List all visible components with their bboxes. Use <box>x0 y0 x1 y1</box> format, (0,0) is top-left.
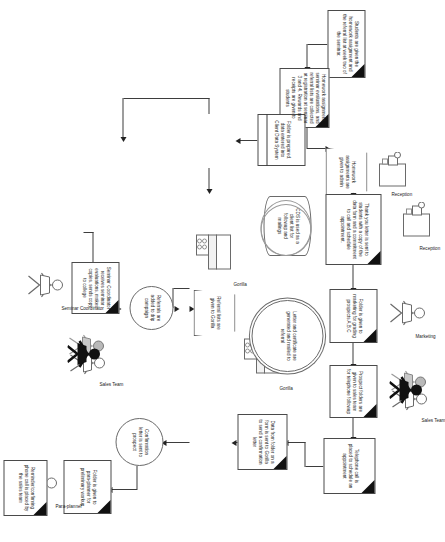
person-icon <box>389 296 425 330</box>
connector <box>122 98 123 138</box>
actor-label-reception-2: Reception <box>419 246 440 251</box>
people-group-icon <box>67 330 107 380</box>
node-reminder-phone-call[interactable]: Reminder/confirming phone call is placed… <box>3 460 47 516</box>
cylinder-ring <box>260 204 311 256</box>
node-students-given-homework[interactable]: Students are given the homework assignme… <box>327 10 365 78</box>
node-text: Confirmation letter is sent to prospect <box>130 425 148 459</box>
node-text: Data from folder on a form is sent to Go… <box>250 418 274 466</box>
arrow-head <box>231 440 236 446</box>
actor-label-reception-1: Reception <box>391 192 412 197</box>
node-text: Reminder/confirming phone call is placed… <box>16 464 34 512</box>
connector <box>83 232 93 233</box>
node-text: Telephone call is placed to schedule an … <box>340 442 358 490</box>
node-text: Prospect folders are given to sales team… <box>344 369 362 414</box>
node-thank-you-letter[interactable]: Thank you letter is sent to students wit… <box>325 194 381 265</box>
node-data-to-gorilla[interactable]: Data from folder on a form is sent to Go… <box>237 414 287 470</box>
node-text: Referral lists are given to Gorilla <box>208 293 220 333</box>
corner-fold-icon <box>367 251 380 264</box>
arrow-head <box>235 138 240 144</box>
actor-label-marketing: Marketing <box>415 334 435 339</box>
connector <box>306 44 307 68</box>
node-text: Folder is given to para-planner for prel… <box>78 464 96 510</box>
node-letter-certificate-mailed[interactable]: Letter and certificate are generated and… <box>251 300 323 372</box>
connector <box>165 442 189 443</box>
connector <box>304 442 305 467</box>
reception-desk-icon <box>375 152 409 190</box>
arrow-head <box>120 137 126 142</box>
corner-fold-icon <box>361 480 374 493</box>
node-telephone-call-placed[interactable]: Telephone call is placed to schedule an … <box>323 438 375 494</box>
node-text: Students are given the homework assignme… <box>334 14 358 74</box>
connector <box>173 288 189 289</box>
node-text: Homework assignments are given to admin <box>337 151 355 193</box>
corner-fold-icon <box>363 329 376 342</box>
node-text: Homework assignment, seminar evaluations… <box>283 72 325 124</box>
node-text: Thank you letter is sent to students wit… <box>338 198 368 261</box>
connector <box>352 343 353 365</box>
corner-fold-icon <box>273 456 286 469</box>
node-homework-to-admin[interactable]: Homework assignments are given to admin <box>325 148 367 196</box>
node-cds-database[interactable]: CDS is used as a client list for followu… <box>263 196 311 256</box>
node-text: Referrals are added to drip campaign <box>142 293 160 323</box>
connector <box>352 265 353 289</box>
connector <box>111 489 137 490</box>
corner-fold-icon <box>363 404 376 417</box>
node-referrals-drip-campaign[interactable]: Referrals are added to drip campaign <box>129 286 173 330</box>
arrow-head <box>189 306 194 312</box>
node-referral-lists-to-gorilla[interactable]: Referral lists are given to Gorilla <box>193 290 235 336</box>
connector <box>92 232 93 262</box>
node-text: Letter and certificate are generated and… <box>278 307 296 365</box>
connector <box>306 128 307 148</box>
people-group-icon <box>389 366 429 416</box>
connector <box>352 418 353 438</box>
arrow-head <box>206 189 212 194</box>
node-text: Folder is given to marketing for grading… <box>344 293 362 339</box>
computer-icon <box>193 232 233 274</box>
actor-label-gorilla-2: Gorilla <box>233 282 246 287</box>
node-text: Folder is prepared, data entered into Cl… <box>272 118 290 162</box>
node-divider <box>266 114 267 166</box>
connector <box>307 44 327 45</box>
connector <box>239 140 257 141</box>
connector <box>208 168 209 190</box>
actor-label-sales-team-1: Sales Team <box>421 418 445 423</box>
connector <box>305 466 323 467</box>
person-icon <box>27 268 63 302</box>
arrow-head <box>174 306 179 312</box>
actor-label-gorilla-1: Gorilla <box>279 386 292 391</box>
corner-fold-icon <box>97 500 110 513</box>
connector <box>306 148 325 149</box>
connector <box>123 98 209 99</box>
connector <box>136 466 137 489</box>
node-text: Seminar Coordinator receives seminar eva… <box>80 266 110 310</box>
node-folder-to-marketing[interactable]: Folder is given to marketing for grading… <box>329 289 377 343</box>
node-confirmation-letter[interactable]: Confirmation letter is sent to prospect <box>115 418 163 466</box>
node-prospect-folders-sales[interactable]: Prospect folders are given to sales team… <box>329 365 377 418</box>
connector <box>208 98 209 114</box>
actor-label-sales-team-2: Sales Team <box>99 382 123 387</box>
corner-fold-icon <box>33 502 46 515</box>
connector <box>287 442 305 443</box>
reception-desk-icon <box>399 202 433 240</box>
